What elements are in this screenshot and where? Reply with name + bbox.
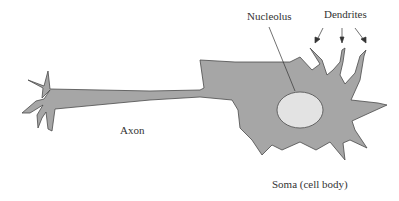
dendrite-arrows	[315, 28, 366, 43]
axon-label: Axon	[120, 124, 144, 136]
neuron-diagram	[0, 0, 399, 201]
nucleolus-label: Nucleolus	[247, 10, 292, 22]
neuron-shape	[22, 48, 387, 160]
dendrites-label: Dendrites	[324, 8, 367, 20]
nucleolus-shape	[277, 92, 323, 128]
soma-label: Soma (cell body)	[272, 178, 348, 190]
